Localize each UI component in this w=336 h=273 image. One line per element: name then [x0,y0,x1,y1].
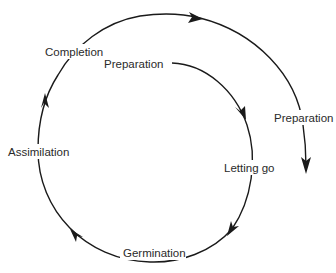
label-preparation-inner: Preparation [104,58,163,70]
arrowhead-inner-right-icon [235,106,246,120]
label-completion: Completion [45,46,103,58]
arrowhead-lower-left-icon [70,229,83,242]
label-assimilation: Assimilation [8,146,69,158]
label-letting-go: Letting go [224,162,275,174]
arrowhead-lower-right-icon [227,221,239,236]
label-germination: Germination [123,247,186,259]
label-preparation-outer: Preparation [274,112,333,124]
cycle-diagram: Preparation Letting go Germination Assim… [0,0,336,273]
